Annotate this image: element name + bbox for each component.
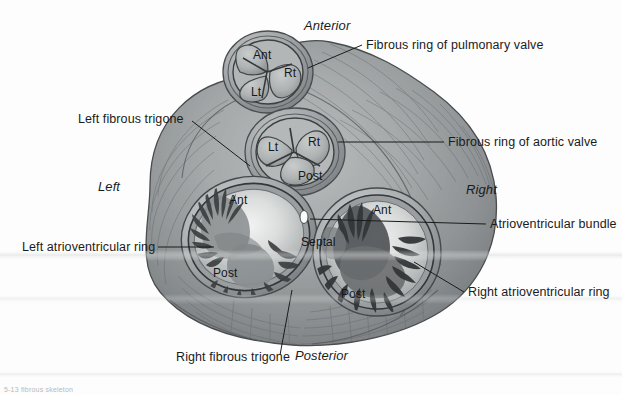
- anatomical-figure: Anterior Posterior Left Right Fibrous ri…: [0, 0, 622, 395]
- orientation-left: Left: [98, 179, 120, 194]
- aortic-cusp-rt-label: Rt: [308, 135, 320, 149]
- mitral-cusp-post-label: Post: [213, 266, 237, 280]
- callout-left-atrioventricular-ring: Left atrioventricular ring: [22, 240, 155, 254]
- callout-fibrous-ring-of-aortic-valve: Fibrous ring of aortic valve: [448, 135, 597, 149]
- heart-fibrous-skeleton-illustration: [0, 0, 622, 395]
- pulmonary-valve-group: [223, 31, 313, 113]
- aortic-cusp-lt-label: Lt: [268, 140, 278, 154]
- callout-atrioventricular-bundle: Atrioventricular bundle: [490, 217, 617, 231]
- pulmonary-cusp-lt-label: Lt: [251, 85, 261, 99]
- tricuspid-cusp-ant-label: Ant: [373, 203, 391, 217]
- pulmonary-cusp-ant-label: Ant: [253, 48, 271, 62]
- callout-left-fibrous-trigone: Left fibrous trigone: [78, 112, 184, 126]
- tricuspid-cusp-septal-label: Septal: [301, 235, 336, 249]
- atrioventricular-bundle-marker: [300, 211, 308, 224]
- scan-band-bottom: [0, 371, 622, 378]
- orientation-posterior: Posterior: [295, 348, 348, 363]
- callout-fibrous-ring-of-pulmonary-valve: Fibrous ring of pulmonary valve: [366, 38, 543, 52]
- orientation-anterior: Anterior: [304, 18, 350, 33]
- orientation-right: Right: [466, 182, 497, 197]
- tricuspid-cusp-post-label: Post: [341, 287, 365, 301]
- callout-right-fibrous-trigone: Right fibrous trigone: [176, 350, 290, 364]
- figure-caption: 5-13 fibrous skeleton: [4, 386, 73, 393]
- callout-right-atrioventricular-ring: Right atrioventricular ring: [468, 285, 610, 299]
- fibrous-skeleton-body: [146, 41, 497, 348]
- mitral-cusp-ant-label: Ant: [229, 193, 247, 207]
- aortic-cusp-post-label: Post: [298, 169, 322, 183]
- pulmonary-cusp-rt-label: Rt: [284, 66, 296, 80]
